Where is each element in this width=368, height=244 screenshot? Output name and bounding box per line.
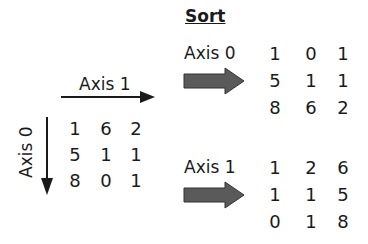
matrix-cell: 1 [267,45,283,63]
matrix-cell: 1 [303,186,319,204]
axis1-arrow-icon [60,90,156,104]
matrix-cell: 2 [128,120,144,138]
matrix-cell: 1 [267,159,283,177]
block-arrow-icon [183,67,245,95]
matrix-cell: 1 [303,213,319,231]
matrix-cell: 1 [303,72,319,90]
matrix-cell: 8 [267,99,283,117]
matrix-cell: 0 [303,45,319,63]
matrix-cell: 1 [267,186,283,204]
sort-axis0-label: Axis 0 [184,45,236,62]
matrix-cell: 1 [335,72,351,90]
matrix-cell: 0 [267,213,283,231]
matrix-cell: 1 [67,120,83,138]
matrix-cell: 2 [335,99,351,117]
matrix-cell: 5 [67,146,83,164]
matrix-cell: 0 [98,172,114,190]
matrix-cell: 5 [335,186,351,204]
matrix-cell: 6 [335,159,351,177]
matrix-cell: 6 [303,99,319,117]
matrix-cell: 5 [267,72,283,90]
matrix-cell: 1 [128,146,144,164]
sort-title: Sort [185,8,225,25]
matrix-cell: 8 [67,172,83,190]
axis0-label: Axis 0 [18,127,35,179]
sort-axis1-label: Axis 1 [184,159,236,176]
matrix-cell: 1 [98,146,114,164]
axis0-arrow-icon [40,116,54,196]
matrix-cell: 1 [335,45,351,63]
block-arrow-icon [183,181,245,209]
matrix-cell: 6 [98,120,114,138]
matrix-cell: 1 [128,172,144,190]
matrix-cell: 8 [335,213,351,231]
matrix-cell: 2 [303,159,319,177]
